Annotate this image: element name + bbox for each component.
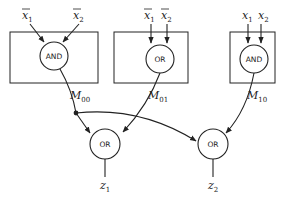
gate-label: OR	[99, 140, 110, 149]
input-x2-bar-label: x2	[161, 9, 172, 24]
gate-label: OR	[207, 140, 218, 149]
wire-x1bar-to-and	[30, 24, 44, 42]
input-x1-label: x1	[242, 9, 253, 24]
wire-m00-to-or-z1	[76, 113, 90, 133]
interconnect	[60, 69, 254, 141]
or-gate-z1-group: OR z1	[90, 129, 120, 194]
input-x2-bar-label: x2	[73, 9, 84, 24]
input-x1-bar-label: x1	[144, 9, 155, 24]
gate-label: OR	[154, 55, 165, 64]
block-m10: x1 x2 AND M10	[230, 9, 275, 104]
block-m01: x1 x2 OR M01	[114, 9, 188, 104]
logic-circuit-diagram: x1 x2 AND M00 x1 x2 OR M01	[0, 0, 284, 197]
input-x2-label: x2	[258, 9, 269, 24]
or-gate-z2-group: OR z2	[198, 129, 228, 194]
signal-m01-label: M01	[147, 89, 168, 104]
block-m00: x1 x2 AND M00	[10, 9, 98, 104]
output-z1-label: z1	[99, 179, 110, 194]
wire-x2bar-to-and	[63, 24, 79, 42]
gate-label: AND	[46, 52, 63, 61]
output-z2-label: z2	[207, 179, 218, 194]
gate-label: AND	[246, 55, 263, 64]
input-x1-bar-label: x1	[22, 9, 33, 24]
wire-m01-to-or-z1	[123, 73, 160, 132]
